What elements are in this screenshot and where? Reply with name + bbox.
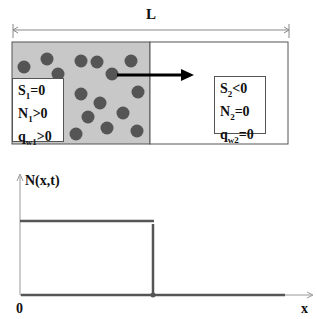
n1-label: N1>0 [18, 105, 58, 128]
wet-region-label-box: S1=0 N1>0 qw1>0 [12, 78, 64, 142]
length-dimension-line [13, 24, 289, 38]
s2-label: S2<0 [220, 80, 260, 103]
x-axis-label: x [301, 300, 308, 317]
qw1-label: qw1>0 [18, 128, 58, 151]
qw2-label: qw2=0 [220, 126, 260, 149]
diagram-canvas [0, 0, 317, 319]
y-axis-label: N(x,t) [25, 172, 60, 189]
front-point [151, 293, 156, 298]
origin-label: 0 [16, 300, 23, 317]
n2-label: N2=0 [220, 103, 260, 126]
length-label: L [146, 6, 156, 23]
dry-region-label-box: S2<0 N2=0 qw2=0 [214, 76, 266, 134]
s1-label: S1=0 [18, 82, 58, 105]
graph-axes [17, 174, 313, 298]
step-profile-line [20, 221, 285, 295]
